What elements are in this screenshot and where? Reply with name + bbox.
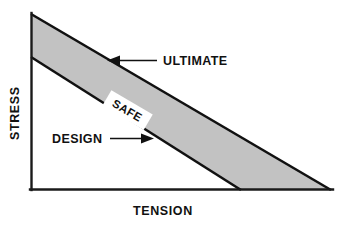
ultimate-label: ULTIMATE — [163, 54, 228, 68]
design-callout: DESIGN — [52, 132, 154, 146]
design-label: DESIGN — [52, 132, 102, 146]
ultimate-line — [31, 14, 331, 190]
y-axis-label: STRESS — [8, 86, 22, 140]
y-axis-label-group: STRESS — [8, 86, 22, 140]
stress-tension-diagram: ULTIMATE DESIGN SAFE STRESS TENSION — [0, 0, 338, 225]
x-axis-label: TENSION — [133, 204, 193, 218]
diagram-canvas: ULTIMATE DESIGN SAFE STRESS TENSION — [0, 0, 338, 225]
ultimate-callout: ULTIMATE — [107, 54, 228, 68]
